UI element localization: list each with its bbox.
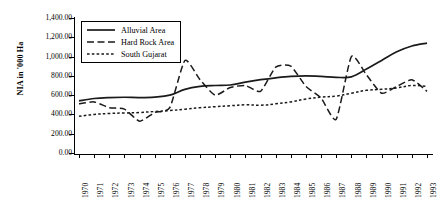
x-axis-tick-label: 1971 — [97, 183, 105, 198]
y-axis-tick-label: 1,400.00 — [26, 14, 72, 22]
x-axis-line — [74, 154, 433, 155]
x-axis-tick-mark — [230, 154, 231, 158]
x-axis-tick-mark — [261, 154, 262, 158]
x-axis-tick-label: 1976 — [173, 183, 181, 198]
x-axis-tick-mark — [79, 154, 80, 158]
x-axis-tick-mark — [321, 154, 322, 158]
x-axis-tick-mark — [276, 154, 277, 158]
x-axis-tick-label: 1980 — [234, 183, 242, 198]
x-axis-tick-mark — [140, 154, 141, 158]
x-axis-tick-label: 1990 — [385, 183, 393, 198]
x-axis-tick-label: 1988 — [355, 183, 363, 198]
x-axis-tick-label: 1977 — [188, 183, 196, 198]
x-axis-tick-mark — [109, 154, 110, 158]
y-axis-tick-label: 400.00 — [26, 110, 72, 118]
series-line-south-gujarat — [79, 85, 427, 116]
x-axis-tick-label: 1981 — [249, 183, 257, 198]
x-axis-tick-label: 1985 — [309, 183, 317, 198]
y-axis-tick-label: 800.00 — [26, 72, 72, 80]
x-axis-tick-mark — [382, 154, 383, 158]
x-axis-tick-label: 1989 — [370, 183, 378, 198]
legend-item: South Gujarat — [86, 48, 174, 60]
x-axis-tick-mark — [306, 154, 307, 158]
chart-legend: Alluvial AreaHard Rock AreaSouth Gujarat — [81, 21, 181, 63]
x-axis-tick-label: 1982 — [264, 183, 272, 198]
x-axis-tick-label: 1984 — [294, 183, 302, 198]
y-axis-tick-label: 600.00 — [26, 91, 72, 99]
x-axis-tick-mark — [185, 154, 186, 158]
x-axis-tick-label: 1987 — [339, 183, 347, 198]
y-axis-tick-mark — [69, 95, 74, 96]
x-axis-tick-label: 1974 — [143, 183, 151, 198]
x-axis-tick-mark — [291, 154, 292, 158]
legend-item-label: Hard Rock Area — [121, 38, 174, 47]
y-axis-tick-label: 0.00 — [26, 149, 72, 157]
x-axis-tick-mark — [94, 154, 95, 158]
x-axis-tick-label: 1983 — [279, 183, 287, 198]
x-axis-tick-mark — [397, 154, 398, 158]
y-axis-tick-label: 1,000.00 — [26, 53, 72, 61]
x-axis-tick-label: 1986 — [324, 183, 332, 198]
y-axis-tick-mark — [69, 18, 74, 19]
x-axis-tick-mark — [351, 154, 352, 158]
x-axis-tick-label: 1978 — [203, 183, 211, 198]
x-axis-tick-mark — [336, 154, 337, 158]
x-axis-tick-mark — [155, 154, 156, 158]
legend-item-label: South Gujarat — [121, 50, 167, 59]
y-axis-tick-mark — [69, 114, 74, 115]
x-axis-tick-label: 1991 — [400, 183, 408, 198]
line-chart: NIA in '000 Ha 1,400.001,200.001,000.008… — [0, 0, 444, 208]
x-axis-tick-label: 1992 — [415, 183, 423, 198]
x-axis-tick-labels: 1970197119721973197419751976197719781979… — [0, 158, 444, 204]
legend-swatch-dashed-icon — [86, 38, 116, 46]
legend-item: Alluvial Area — [86, 24, 174, 36]
y-axis-tick-labels: 1,400.001,200.001,000.00800.00600.00400.… — [26, 12, 72, 158]
x-axis-tick-mark — [412, 154, 413, 158]
x-axis-tick-label: 1975 — [158, 183, 166, 198]
y-axis-title: NIA in '000 Ha — [16, 27, 25, 111]
x-axis-tick-label: 1979 — [218, 183, 226, 198]
x-axis-tick-mark — [215, 154, 216, 158]
x-axis-tick-mark — [200, 154, 201, 158]
y-axis-tick-mark — [69, 37, 74, 38]
y-axis-tick-label: 200.00 — [26, 130, 72, 138]
series-line-hard-rock-area — [79, 56, 427, 121]
x-axis-tick-mark — [170, 154, 171, 158]
x-axis-tick-mark — [124, 154, 125, 158]
x-axis-tick-mark — [366, 154, 367, 158]
x-axis-tick-mark — [245, 154, 246, 158]
y-axis-tick-mark — [69, 153, 74, 154]
legend-swatch-dotted-icon — [86, 50, 116, 58]
legend-item-label: Alluvial Area — [121, 26, 165, 35]
legend-swatch-solid-icon — [86, 26, 116, 34]
y-axis-tick-mark — [69, 76, 74, 77]
x-axis-tick-label: 1970 — [82, 183, 90, 198]
x-axis-tick-label: 1973 — [128, 183, 136, 198]
y-axis-tick-mark — [69, 57, 74, 58]
legend-item: Hard Rock Area — [86, 36, 174, 48]
x-axis-tick-mark — [427, 154, 428, 158]
x-axis-tick-label: 1993 — [430, 183, 438, 198]
y-axis-tick-label: 1,200.00 — [26, 33, 72, 41]
x-axis-tick-label: 1972 — [112, 183, 120, 198]
y-axis-tick-mark — [69, 134, 74, 135]
